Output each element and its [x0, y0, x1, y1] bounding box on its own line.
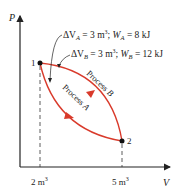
state-point-2-label: 2 [127, 136, 132, 146]
state-point-2 [120, 139, 125, 144]
state-point-1-label: 1 [31, 58, 36, 68]
annotation-a-leader-arrow-icon [48, 78, 52, 83]
y-axis-label: P [8, 12, 15, 23]
process-a-label: Process A [61, 82, 93, 113]
pv-diagram: P V 2 m3 5 m3 Process B Process A 1 2 ΔV… [0, 0, 191, 192]
x-tick-5m3: 5 m3 [112, 176, 129, 187]
process-b-arrow-icon [86, 90, 95, 98]
annotation-b: ΔVB = 3 m3; WB = 12 kJ [71, 48, 163, 60]
annotation-a-leader [50, 35, 62, 80]
annotation-a: ΔVA = 3 m3; WA = 8 kJ [63, 29, 150, 41]
x-axis-label: V [163, 177, 171, 188]
state-point-1 [38, 61, 43, 66]
x-tick-2m3: 2 m3 [31, 176, 48, 187]
